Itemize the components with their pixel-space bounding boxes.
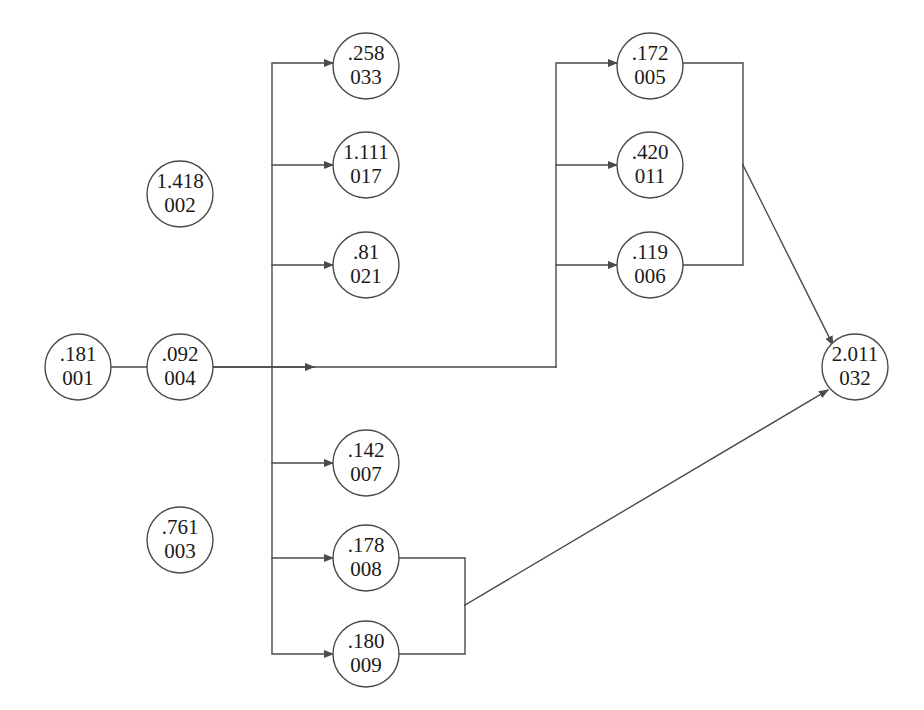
node-value-002: 1.418 [156,169,203,193]
node-005[interactable]: .172005 [617,33,683,99]
node-label-002: 002 [164,193,196,217]
node-value-001: .181 [60,342,97,366]
edge-bus-bottom-to-032 [465,390,828,605]
graph-svg: .181001.0920041.418002.761003.2580331.11… [0,0,924,710]
node-label-006: 006 [634,264,666,288]
node-label-008: 008 [350,557,382,581]
node-label-021: 021 [350,264,382,288]
node-032[interactable]: 2.011032 [822,334,888,400]
diagram-canvas: .181001.0920041.418002.761003.2580331.11… [0,0,924,710]
node-004[interactable]: .092004 [147,334,213,400]
node-value-006: .119 [632,240,668,264]
node-value-005: .172 [632,41,669,65]
node-label-009: 009 [350,653,382,677]
edge-008-to-bus-bottom [399,558,465,605]
node-011[interactable]: .420011 [617,132,683,198]
node-value-011: .420 [632,140,669,164]
node-value-017: 1.111 [343,140,389,164]
node-002[interactable]: 1.418002 [147,161,213,227]
node-label-004: 004 [164,366,196,390]
node-021[interactable]: .81021 [333,232,399,298]
node-033[interactable]: .258033 [333,33,399,99]
node-value-008: .178 [348,533,385,557]
node-007[interactable]: .142007 [333,430,399,496]
node-001[interactable]: .181001 [45,334,111,400]
edge-bus-mid-to-005 [556,63,617,367]
node-value-007: .142 [348,438,385,462]
node-label-033: 033 [350,65,382,89]
node-label-003: 003 [164,539,196,563]
node-label-032: 032 [839,366,871,390]
node-label-007: 007 [350,462,382,486]
node-008[interactable]: .178008 [333,525,399,591]
edges-layer [111,63,833,654]
node-label-017: 017 [350,164,382,188]
node-value-033: .258 [348,41,385,65]
edge-bus-left-to-033 [272,63,333,367]
node-label-011: 011 [635,164,666,188]
edge-006-to-bus-right [683,165,743,265]
node-017[interactable]: 1.111017 [333,132,399,198]
node-003[interactable]: .761003 [147,507,213,573]
node-value-009: .180 [348,629,385,653]
node-value-004: .092 [162,342,199,366]
nodes-layer: .181001.0920041.418002.761003.2580331.11… [45,33,888,687]
node-value-003: .761 [162,515,199,539]
node-009[interactable]: .180009 [333,621,399,687]
node-006[interactable]: .119006 [617,232,683,298]
node-value-032: 2.011 [832,342,878,366]
node-label-001: 001 [62,366,94,390]
node-label-005: 005 [634,65,666,89]
node-value-021: .81 [353,240,379,264]
edge-009-to-bus-bottom [399,605,465,654]
edge-bus-right-to-032 [743,165,833,345]
edge-005-to-bus-right [683,63,743,165]
edge-bus-left-to-009 [272,367,333,654]
